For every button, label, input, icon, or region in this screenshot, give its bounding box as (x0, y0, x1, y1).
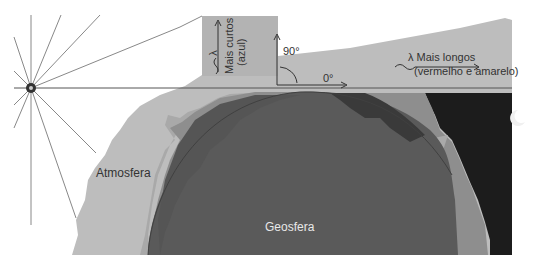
short-wavelength-label-line2: (azul) (235, 38, 247, 66)
short-wavelength-lambda: λ (207, 50, 219, 56)
sun-icon (26, 83, 36, 93)
angle-90-label: 90° (283, 45, 300, 57)
atmosphere-label: Atmosfera (96, 167, 151, 179)
crescent-moon-icon (510, 110, 525, 126)
geosphere-label: Geosfera (265, 221, 314, 233)
angle-0-label: 0° (323, 72, 334, 84)
short-wavelength-label-line1: Mais curtos (223, 18, 235, 74)
long-wavelength-label-line2: (vermelho e amarelo) (414, 65, 519, 77)
long-wavelength-label-line1: λ Mais longos (408, 51, 475, 63)
